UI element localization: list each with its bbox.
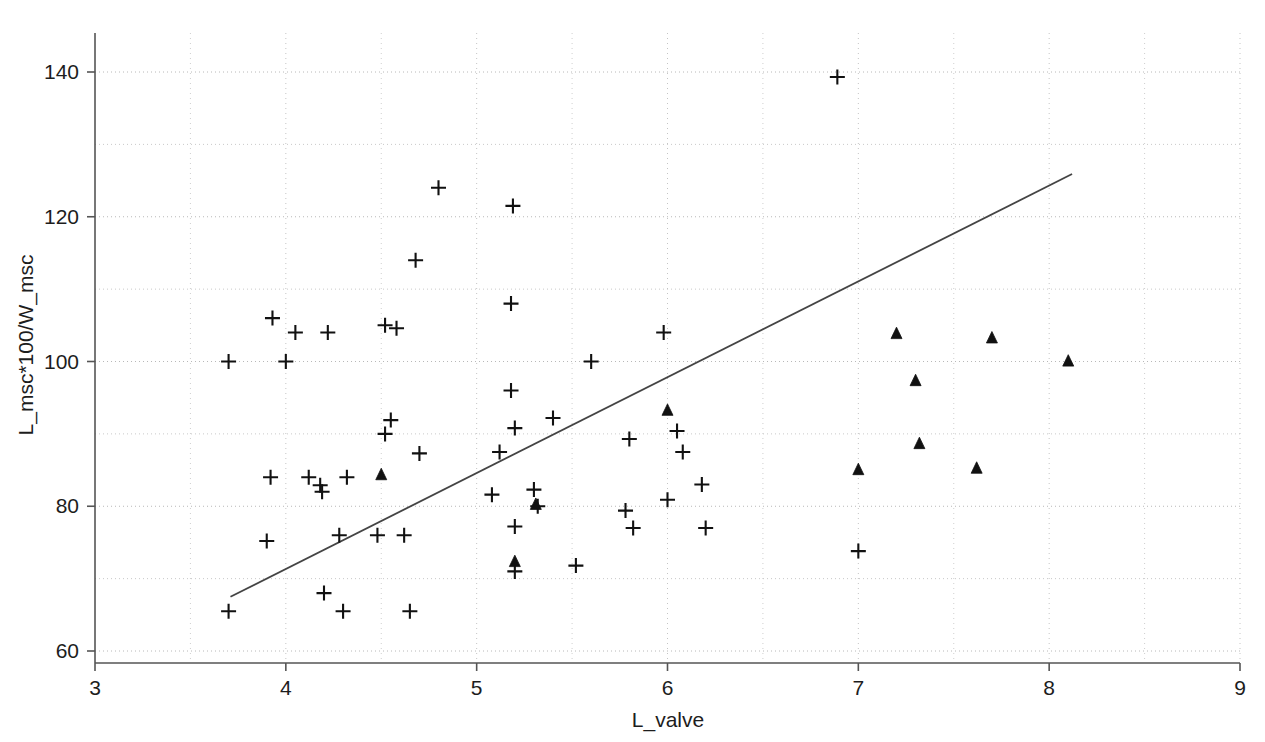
- y-tick-label: 120: [44, 205, 79, 228]
- data-point-triangle: [530, 498, 541, 509]
- data-point-plus: [618, 503, 633, 518]
- data-point-triangle: [914, 437, 925, 448]
- data-point-plus: [313, 478, 328, 493]
- data-point-plus: [263, 470, 278, 485]
- data-point-plus: [504, 383, 519, 398]
- x-axis-title: L_valve: [632, 708, 704, 732]
- y-axis-title: L_msc*100/W_msc: [14, 255, 38, 436]
- x-tick-label: 4: [280, 676, 292, 699]
- data-point-triangle: [376, 468, 387, 479]
- data-point-plus: [336, 604, 351, 619]
- data-point-plus: [378, 426, 393, 441]
- data-point-plus: [507, 421, 522, 436]
- data-point-plus: [656, 325, 671, 340]
- data-point-plus: [622, 431, 637, 446]
- y-tick-label: 80: [56, 494, 79, 517]
- data-point-plus: [221, 604, 236, 619]
- data-point-plus: [317, 586, 332, 601]
- data-point-plus: [259, 533, 274, 548]
- data-point-plus: [339, 470, 354, 485]
- data-point-plus: [526, 482, 541, 497]
- x-axis-tick-labels: 3456789: [89, 676, 1246, 699]
- data-point-triangle: [853, 463, 864, 474]
- x-tick-label: 5: [471, 676, 483, 699]
- data-point-triangle: [910, 374, 921, 385]
- plot-canvas: 3456789 6080100120140 L_valve L_msc*100/…: [0, 0, 1265, 742]
- data-point-plus: [670, 423, 685, 438]
- data-point-plus: [383, 413, 398, 428]
- x-tick-label: 7: [852, 676, 864, 699]
- data-point-plus: [484, 487, 499, 502]
- data-point-plus: [402, 604, 417, 619]
- data-point-plus: [378, 318, 393, 333]
- data-point-plus: [546, 410, 561, 425]
- data-point-plus: [412, 446, 427, 461]
- data-point-plus: [278, 354, 293, 369]
- data-point-triangle: [986, 332, 997, 343]
- y-tick-label: 60: [56, 639, 79, 662]
- data-point-plus: [660, 492, 675, 507]
- data-point-plus: [584, 354, 599, 369]
- data-point-triangle: [891, 327, 902, 338]
- data-point-plus: [389, 321, 404, 336]
- data-series-triangle-markers: [376, 327, 1074, 566]
- data-point-plus: [626, 520, 641, 535]
- data-point-plus: [301, 470, 316, 485]
- data-point-plus: [315, 484, 330, 499]
- data-point-plus: [397, 528, 412, 543]
- x-tick-label: 3: [89, 676, 101, 699]
- data-point-plus: [507, 519, 522, 534]
- data-point-plus: [851, 544, 866, 559]
- data-point-plus: [698, 520, 713, 535]
- data-point-plus: [505, 198, 520, 213]
- data-point-plus: [830, 70, 845, 85]
- data-point-plus: [694, 477, 709, 492]
- scatter-plot-figure: 3456789 6080100120140 L_valve L_msc*100/…: [0, 0, 1265, 742]
- data-point-plus: [492, 444, 507, 459]
- data-point-triangle: [662, 404, 673, 415]
- y-axis-tick-labels: 6080100120140: [44, 60, 79, 662]
- data-point-triangle: [1063, 355, 1074, 366]
- x-tick-label: 8: [1043, 676, 1055, 699]
- data-point-plus: [675, 444, 690, 459]
- data-point-plus: [265, 311, 280, 326]
- data-series-plus-markers: [221, 70, 866, 619]
- data-point-plus: [320, 325, 335, 340]
- data-point-plus: [568, 558, 583, 573]
- data-point-plus: [370, 528, 385, 543]
- data-point-triangle: [509, 555, 520, 566]
- y-tick-label: 100: [44, 350, 79, 373]
- data-point-plus: [221, 354, 236, 369]
- data-point-triangle: [971, 462, 982, 473]
- data-point-plus: [408, 253, 423, 268]
- data-point-plus: [431, 180, 446, 195]
- x-tick-label: 6: [662, 676, 674, 699]
- regression-trend-line: [230, 174, 1072, 597]
- data-point-plus: [504, 296, 519, 311]
- trend-line-segment: [230, 174, 1072, 597]
- x-tick-label: 9: [1234, 676, 1246, 699]
- data-point-plus: [288, 325, 303, 340]
- y-tick-label: 140: [44, 60, 79, 83]
